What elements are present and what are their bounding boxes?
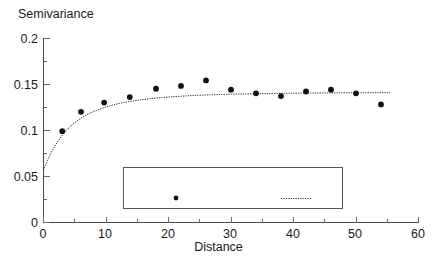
data-point xyxy=(278,93,284,99)
data-point xyxy=(78,109,84,115)
data-point xyxy=(203,78,209,84)
data-point xyxy=(303,89,309,95)
plot-canvas xyxy=(0,0,437,265)
legend-border xyxy=(124,168,343,209)
x-axis-ticks xyxy=(44,217,419,223)
exponential-model-curve xyxy=(44,93,391,170)
chart-legend xyxy=(124,168,343,209)
data-point xyxy=(59,128,65,134)
data-point xyxy=(253,90,259,96)
y-axis-ticks xyxy=(44,39,50,223)
data-point xyxy=(178,83,184,89)
data-point xyxy=(127,94,133,100)
classical-estimator-points xyxy=(59,78,384,135)
data-point xyxy=(228,87,234,93)
semivariogram-chart: Semivariance 0.2 0.15 0.1 0.05 0 0 10 20… xyxy=(0,0,437,265)
data-point xyxy=(153,86,159,92)
legend-marker-classical-estimator xyxy=(174,196,179,201)
data-point xyxy=(101,100,107,106)
data-point xyxy=(328,87,334,93)
data-point xyxy=(378,102,384,108)
data-point xyxy=(353,90,359,96)
